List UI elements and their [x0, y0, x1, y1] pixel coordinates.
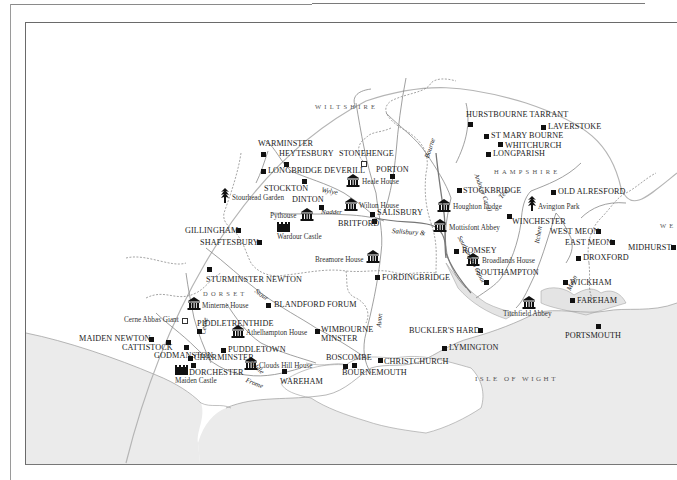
- site-label-pythouse: Pythouse: [270, 213, 296, 220]
- town-label-heytesbury: HEYTESBURY: [279, 150, 334, 158]
- town-label-puddletown: PUDDLETOWN: [228, 346, 286, 354]
- town-label-maiden-newton: MAIDEN NEWTON: [79, 335, 150, 343]
- county-label-wiltshire: WILTSHIRE: [315, 104, 378, 111]
- county-label-west-sussex: WE: [660, 223, 677, 230]
- town-label-britford: BRITFORD: [338, 220, 379, 228]
- house-icon-wilton-house: [344, 198, 358, 211]
- site-label-athelhampton-house: Athelhampton House: [246, 330, 307, 337]
- town-label-dorchester: DORCHESTER: [189, 369, 244, 377]
- town-marker-wimbourne-minster: [315, 329, 320, 334]
- town-marker-droxford: [576, 256, 581, 261]
- town-label-gillingham: GILLINGHAM: [185, 227, 238, 235]
- house-icon-pythouse: [300, 208, 314, 221]
- town-label-dinton: DINTON: [292, 196, 324, 204]
- house-icon-clouds-hill-house: [244, 357, 258, 370]
- town-label-fordingbridge: FORDINGBRIDGE: [382, 274, 450, 282]
- town-label-wickham: WICKHAM: [570, 279, 612, 287]
- house-icon-athelhampton-house: [231, 325, 245, 338]
- castle-icon-wardour-castle: [277, 222, 290, 232]
- outer-frame-top-right: [312, 3, 645, 4]
- site-label-heale-house: Heale House: [362, 179, 399, 186]
- town-label-old-alresford: OLD ALRESFORD: [558, 188, 626, 196]
- town-label-sturminster-newton: STURMINSTER NEWTON: [206, 276, 302, 284]
- town-marker-laverstoke: [541, 125, 546, 130]
- town-label-st-mary-bourne: ST MARY BOURNE: [491, 132, 563, 140]
- town-marker-longbridge-deverill: [261, 169, 266, 174]
- town-label-shaftesbury: SHAFTESBURY: [200, 239, 259, 247]
- house-icon-mottisfont-abbey: [433, 219, 447, 232]
- island-label-isle-of-wight: ISLE OF WIGHT: [475, 376, 558, 383]
- town-marker-charminster: [188, 356, 193, 361]
- town-marker-portsmouth: [596, 324, 601, 329]
- town-marker-midhurst: [671, 245, 676, 250]
- town-label-portsmouth: PORTSMOUTH: [565, 332, 621, 340]
- site-label-avington-park: Avington Park: [538, 204, 580, 211]
- site-label-houghton-lodge: Houghton Lodge: [453, 204, 502, 211]
- site-label-wardour-castle: Wardour Castle: [277, 234, 322, 241]
- site-label-breamore-house: Breamore House: [315, 257, 364, 264]
- town-marker-dinton: [319, 205, 324, 210]
- town-label-blandford-forum: BLANDFORD FORUM: [274, 301, 357, 309]
- town-label-warminster: WARMINSTER: [258, 140, 313, 148]
- town-marker-lymington: [442, 346, 447, 351]
- town-label-stockton: STOCKTON: [264, 185, 308, 193]
- town-label-wimbourne-minster: WIMBOURNE MINSTER: [321, 326, 381, 343]
- town-marker-godmanston: [184, 345, 189, 350]
- town-label-longparish: LONGPARISH: [493, 150, 545, 158]
- town-label-stockbridge: STOCKBRIDGE: [463, 187, 521, 195]
- town-label-christchurch: CHRISTCHURCH: [384, 358, 448, 366]
- site-label-cerne-abbas-giant: Cerne Abbas Giant: [124, 317, 179, 324]
- monument-marker-stonehenge: [361, 161, 367, 167]
- town-marker-old-alresford: [551, 190, 556, 195]
- town-marker-fordingbridge: [375, 275, 380, 280]
- town-label-winchester: WINCHESTER: [512, 218, 566, 226]
- monument-marker-cerne-abbas-giant: [182, 318, 188, 324]
- town-marker-hurstbourne-tarrant: [468, 122, 473, 127]
- town-label-hurstbourne-tarrant: HURSTBOURNE TARRANT: [466, 111, 568, 119]
- town-marker-piddletrenthide: [197, 329, 202, 334]
- town-label-wareham: WAREHAM: [280, 378, 323, 386]
- town-marker-longparish: [486, 152, 491, 157]
- town-label-laverstoke: LAVERSTOKE: [548, 123, 601, 131]
- site-label-clouds-hill-house: Clouds Hill House: [259, 363, 313, 370]
- town-marker-fareham: [570, 298, 575, 303]
- site-label-stourhead-garden: Stourhead Garden: [232, 195, 284, 202]
- town-label-droxford: DROXFORD: [583, 254, 629, 262]
- town-label-southampton: SOUTHAMPTON: [476, 269, 539, 277]
- town-marker-sturminster-newton: [207, 267, 212, 272]
- house-icon-broadlands-house: [466, 253, 480, 266]
- town-marker-christchurch: [378, 358, 383, 363]
- map-canvas: WILTSHIRE HAMPSHIRE DORSET WE ISLE OF WI…: [25, 22, 677, 465]
- town-marker-whitchurch: [498, 142, 503, 147]
- town-label-lymington: LYMINGTON: [449, 344, 499, 352]
- town-label-midhurst: MIDHURST: [628, 244, 672, 252]
- house-icon-breamore-house: [366, 250, 380, 263]
- town-label-east-meon: EAST MEON: [565, 239, 612, 247]
- tree-icon-avington-park: [527, 196, 537, 211]
- town-marker-southampton: [484, 280, 489, 285]
- site-label-titchfield-abbey: Titchfield Abbey: [503, 311, 552, 318]
- town-label-bournemouth: BOURNEMOUTH: [342, 369, 407, 377]
- town-label-west-meon: WEST MEON: [550, 228, 599, 236]
- site-label-minterne-house: Minterne House: [202, 303, 249, 310]
- river-label-nadder: Nadder: [321, 209, 342, 216]
- house-icon-heale-house: [346, 174, 360, 187]
- town-marker-wickham: [563, 280, 568, 285]
- tree-icon-stourhead-garden: [220, 188, 230, 203]
- town-marker-st-mary-bourne: [484, 134, 489, 139]
- town-label-stonehenge: STONEHENGE: [339, 150, 394, 158]
- town-label-boscombe: BOSCOMBE: [326, 354, 372, 362]
- outer-frame-left: [10, 4, 11, 480]
- site-label-mottisfont-abbey: Mottisfont Abbey: [449, 225, 500, 232]
- town-marker-romsey: [454, 249, 459, 254]
- town-marker-blandford-forum: [266, 303, 271, 308]
- site-label-maiden-castle: Maiden Castle: [175, 378, 217, 385]
- outer-frame-top: [10, 4, 312, 5]
- county-label-dorset: DORSET: [203, 291, 247, 298]
- county-label-hampshire: HAMPSHIRE: [494, 169, 560, 176]
- town-label-fareham: FAREHAM: [577, 297, 617, 305]
- site-label-wilton-house: Wilton House: [359, 203, 399, 210]
- town-label-porton: PORTON: [376, 166, 409, 174]
- house-icon-minterne-house: [187, 297, 201, 310]
- house-icon-titchfield-abbey: [522, 296, 536, 309]
